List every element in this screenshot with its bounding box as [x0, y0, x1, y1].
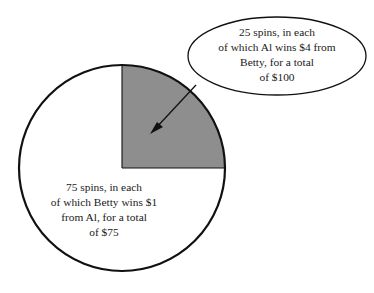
- pie-label-line-2: of which Betty wins $1: [51, 196, 158, 208]
- callout-line-1: 25 spins, in each: [239, 26, 315, 38]
- callout-line-4: of $100: [259, 71, 294, 83]
- pie-chart-canvas: 25 spins, in each of which Al wins $4 fr…: [0, 0, 374, 293]
- callout-line-3: Betty, for a total: [240, 56, 314, 68]
- pie-label-line-1: 75 spins, in each: [66, 181, 142, 193]
- pie-label-line-4: of $75: [89, 226, 119, 238]
- pie-chart-figure: 25 spins, in each of which Al wins $4 fr…: [0, 0, 374, 293]
- callout-line-2: of which Al wins $4 from: [218, 41, 336, 53]
- pie-label-line-3: from Al, for a total: [61, 211, 147, 223]
